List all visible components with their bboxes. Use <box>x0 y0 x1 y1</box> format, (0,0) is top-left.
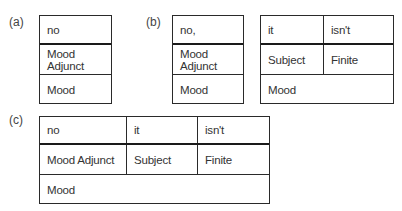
row-functions: Mood Adjunct <box>40 45 111 75</box>
row-words: no, <box>173 16 243 45</box>
label-a: (a) <box>9 15 24 29</box>
table-b-left: no, Mood Adjunct Mood <box>172 15 244 104</box>
cell-subject: Subject <box>261 45 324 74</box>
row-functions: Mood Adjunct <box>173 45 243 75</box>
row-functions: Mood Adjunct Subject Finite <box>40 145 269 175</box>
cell-mood-adjunct: Mood Adjunct <box>40 145 127 174</box>
cell-finite: Finite <box>198 145 269 174</box>
cell-mood: Mood <box>173 75 243 104</box>
cell-mood-adjunct: Mood Adjunct <box>173 45 243 74</box>
row-functions: Subject Finite <box>261 45 393 75</box>
cell-it: it <box>261 16 324 43</box>
label-c: (c) <box>9 113 23 127</box>
row-mood: Mood <box>173 75 243 104</box>
cell-no-comma: no, <box>173 16 243 43</box>
table-a: no Mood Adjunct Mood <box>39 15 112 104</box>
cell-mood-adjunct: Mood Adjunct <box>40 45 111 74</box>
row-words: no it isn't <box>40 117 269 145</box>
row-words: no <box>40 16 111 45</box>
cell-no: no <box>40 16 111 43</box>
cell-isnt: isn't <box>324 16 393 43</box>
row-mood: Mood <box>40 175 269 204</box>
cell-no: no <box>40 117 127 143</box>
cell-subject: Subject <box>127 145 198 174</box>
table-b-right: it isn't Subject Finite Mood <box>260 15 394 104</box>
cell-mood: Mood <box>261 75 393 104</box>
cell-it: it <box>127 117 198 143</box>
row-words: it isn't <box>261 16 393 45</box>
cell-isnt: isn't <box>198 117 269 143</box>
table-c: no it isn't Mood Adjunct Subject Finite … <box>39 116 270 204</box>
row-mood: Mood <box>40 75 111 104</box>
cell-finite: Finite <box>324 45 393 74</box>
label-b: (b) <box>146 15 161 29</box>
cell-mood: Mood <box>40 175 269 204</box>
row-mood: Mood <box>261 75 393 104</box>
cell-mood: Mood <box>40 75 111 104</box>
